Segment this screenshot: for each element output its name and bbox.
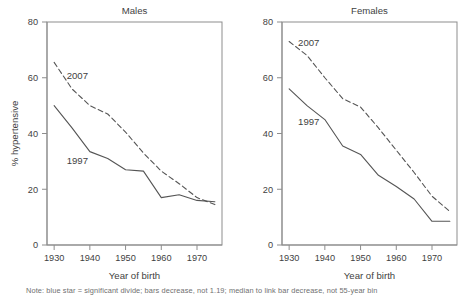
y-tick-label: 40 [263,129,273,139]
series-line-1997 [54,106,215,202]
figure-caption: Note: blue star = significant divide; ba… [0,286,469,296]
x-tick-label: 1950 [115,253,135,263]
panel-title: Females [351,5,388,16]
y-tick-label: 60 [28,73,38,83]
figure-root: Males02040608019301940195019601970Year o… [0,0,469,296]
x-axis-label: Year of birth [344,270,395,281]
x-tick-label: 1930 [44,253,64,263]
x-axis-label: Year of birth [109,270,160,281]
x-tick-label: 1960 [151,253,171,263]
y-tick-label: 80 [263,17,273,27]
plot-area-border [282,22,457,245]
chart-svg-males: Males02040608019301940195019601970Year o… [0,0,234,296]
x-tick-label: 1930 [279,253,299,263]
chart-svg-females: Females02040608019301940195019601970Year… [235,0,469,296]
x-tick-label: 1970 [422,253,442,263]
y-tick-label: 80 [28,17,38,27]
y-tick-label: 40 [28,129,38,139]
x-tick-label: 1940 [315,253,335,263]
y-axis-label: % hypertensive [9,101,20,167]
series-label-2007: 2007 [67,70,88,81]
series-label-1997: 1997 [67,155,88,166]
series-label-1997: 1997 [298,116,319,127]
x-tick-label: 1960 [386,253,406,263]
y-tick-label: 0 [268,240,273,250]
x-tick-label: 1950 [350,253,370,263]
x-tick-label: 1940 [80,253,100,263]
y-tick-label: 20 [28,185,38,195]
panel-females: Females02040608019301940195019601970Year… [235,0,469,296]
panel-title: Males [122,5,148,16]
y-tick-label: 0 [33,240,38,250]
x-tick-label: 1970 [187,253,207,263]
panel-males: Males02040608019301940195019601970Year o… [0,0,234,296]
y-tick-label: 60 [263,73,273,83]
series-label-2007: 2007 [298,37,319,48]
series-line-1997 [289,89,450,221]
y-tick-label: 20 [263,185,273,195]
series-line-2007 [54,62,215,204]
plot-area-border [47,22,222,245]
